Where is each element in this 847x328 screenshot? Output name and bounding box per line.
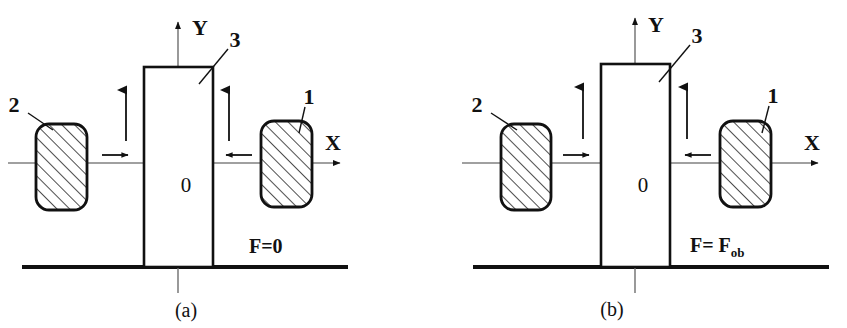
origin-label: 0: [638, 173, 649, 197]
left-block: [501, 124, 551, 210]
panel-b-caption: (b): [600, 298, 623, 321]
panel-a-caption: (a): [175, 299, 197, 322]
column-callout-label: 3: [692, 23, 703, 48]
right-block-callout-label: 1: [768, 83, 779, 108]
vertical-column: [601, 64, 670, 267]
y-axis-label: Y: [192, 15, 208, 40]
y-axis-label: Y: [648, 12, 664, 37]
left-block-callout-label: 2: [472, 92, 483, 117]
x-axis-label: X: [325, 130, 341, 155]
vertical-column: [144, 67, 213, 267]
left-block-callout-label: 2: [9, 92, 20, 117]
left-block: [36, 124, 87, 210]
x-axis-label: X: [804, 130, 820, 155]
figure-svg: 2 1 3 Y X 0 F=0 (a): [0, 0, 847, 328]
right-block: [261, 121, 312, 207]
right-block-callout-label: 1: [304, 84, 315, 109]
right-block: [720, 121, 771, 207]
column-callout-label: 3: [230, 27, 241, 52]
force-label-b-base: F= F: [690, 234, 731, 256]
force-label-a: F=0: [249, 235, 283, 257]
origin-label: 0: [181, 173, 192, 197]
force-label-b-subscript: ob: [731, 245, 745, 260]
figure-container: 2 1 3 Y X 0 F=0 (a): [0, 0, 847, 328]
